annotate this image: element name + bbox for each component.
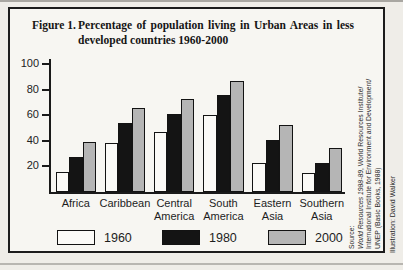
source-work-title: World Resources 1988-89	[357, 170, 364, 249]
x-category-label-southern-asia: Southern Asia	[293, 197, 351, 222]
figure-number-label: Figure 1.	[32, 18, 76, 33]
top-rule-divider	[0, 0, 403, 2]
source-line1: World Resources 1988-89, World Resources…	[357, 57, 366, 249]
legend-swatch-2000	[268, 230, 306, 245]
figure-box: Figure 1. Percentage of population livin…	[8, 7, 385, 253]
figure-title-block: Figure 1. Percentage of population livin…	[32, 18, 354, 48]
bar-2000-central-america	[181, 99, 195, 192]
y-tick-60	[42, 114, 49, 116]
figure-title-line1: Percentage of population living in Urban…	[78, 18, 354, 33]
illustration-credit: Illustration: David Walker	[389, 143, 396, 253]
bar-1980-eastern-asia	[266, 140, 280, 192]
bar-1980-southern-asia	[315, 163, 329, 192]
bar-1960-southern-asia	[302, 173, 316, 192]
bar-2000-eastern-asia	[279, 125, 293, 192]
bar-1980-caribbean	[118, 123, 132, 192]
bar-1980-central-america	[167, 114, 181, 192]
legend-label-1980: 1980	[209, 231, 237, 245]
legend-item-2000: 2000	[268, 230, 343, 245]
legend-swatch-1980	[162, 230, 200, 245]
source-line2: International Institute for Environment …	[365, 57, 374, 249]
source-attribution: Source: World Resources 1988-89, World R…	[348, 57, 382, 249]
bar-2000-south-america	[230, 81, 244, 192]
bar-1960-eastern-asia	[252, 163, 266, 192]
bar-1960-caribbean	[105, 143, 119, 192]
legend-label-1960: 1960	[104, 231, 132, 245]
y-tick-80	[42, 89, 49, 91]
bar-1980-africa	[69, 157, 83, 192]
figure-title: Percentage of population living in Urban…	[78, 18, 354, 48]
y-tick-20	[42, 165, 49, 167]
bar-2000-caribbean	[132, 108, 146, 192]
bar-2000-africa	[83, 142, 97, 192]
y-tick-40	[42, 140, 49, 142]
legend-item-1980: 1980	[162, 230, 237, 245]
bottom-rule-divider	[0, 263, 403, 265]
source-heading: Source:	[348, 57, 357, 249]
y-tick-label-100: 100	[3, 57, 39, 69]
y-tick-label-20: 20	[3, 159, 39, 171]
bar-1960-central-america	[154, 132, 168, 192]
bar-1980-south-america	[217, 95, 231, 192]
legend-item-1960: 1960	[57, 230, 132, 245]
x-axis-line	[49, 192, 345, 194]
page: Figure 1. Percentage of population livin…	[0, 0, 403, 270]
figure-title-line2: developed countries 1960-2000	[78, 33, 354, 48]
legend-swatch-1960	[57, 230, 95, 245]
y-tick-label-40: 40	[3, 134, 39, 146]
bar-1960-south-america	[203, 115, 217, 192]
bar-2000-southern-asia	[329, 148, 343, 192]
y-tick-label-80: 80	[3, 83, 39, 95]
source-line3: UNEP (Basic Books, 1988)	[374, 57, 383, 249]
bar-1960-africa	[56, 172, 70, 192]
y-axis-line	[49, 59, 51, 192]
y-tick-label-60: 60	[3, 108, 39, 120]
y-tick-100	[42, 63, 49, 65]
legend-label-2000: 2000	[315, 231, 343, 245]
plot-area: 20406080100AfricaCaribbeanCentral Americ…	[49, 64, 343, 192]
